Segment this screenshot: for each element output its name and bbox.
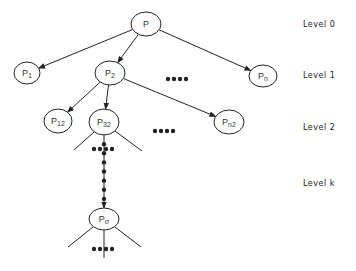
ellipsis-dot <box>102 178 106 182</box>
edge-p-p2 <box>118 34 139 62</box>
node-p1: P1 <box>14 62 40 84</box>
edge-p2-pn2 <box>123 78 215 116</box>
nodes-group: PP1P2PnP12P32Pn2Pσ <box>14 12 277 230</box>
node-label: P <box>143 19 149 29</box>
level-label-0: Level 0 <box>303 20 335 29</box>
node-p: P <box>131 12 161 36</box>
edge-p-p1 <box>39 29 133 68</box>
level-label-3: Level k <box>303 179 335 188</box>
ellipsis-dot <box>102 197 106 201</box>
level1-dots <box>166 77 188 81</box>
ellipsis-dot <box>102 169 106 173</box>
ellipsis-dot <box>102 160 106 164</box>
level-label-2: Level 2 <box>303 123 335 132</box>
p32-children-dots <box>92 147 114 151</box>
level-label-1: Level 1 <box>303 71 335 80</box>
node-pn: Pn <box>249 65 277 87</box>
ellipsis-dot <box>102 188 106 192</box>
ellipsis-dot <box>102 142 106 146</box>
tree-diagram-svg: PP1P2PnP12P32Pn2Pσ Level 0Level 1Level 2… <box>0 0 356 271</box>
node-pn2: Pn2 <box>214 110 244 134</box>
p32-left-branch <box>74 132 94 150</box>
psigma-right-branch <box>115 227 141 247</box>
psigma-left-branch <box>68 227 93 247</box>
level2-dots <box>153 129 175 133</box>
psigma-children-dots <box>92 247 114 251</box>
node-p12: P12 <box>44 109 72 133</box>
edge-p-pn <box>159 30 251 71</box>
node-p2: P2 <box>95 61 125 85</box>
edge-p2-p12 <box>68 82 101 112</box>
ellipsis-dot <box>102 151 106 155</box>
edge-p2-p32 <box>106 85 109 109</box>
node-psigma: Pσ <box>89 208 119 230</box>
level-labels: Level 0Level 1Level 2Level k <box>303 20 335 188</box>
node-p32: P32 <box>89 109 119 135</box>
p32-right-branch <box>115 131 142 151</box>
tree-diagram: PP1P2PnP12P32Pn2Pσ Level 0Level 1Level 2… <box>0 0 356 271</box>
